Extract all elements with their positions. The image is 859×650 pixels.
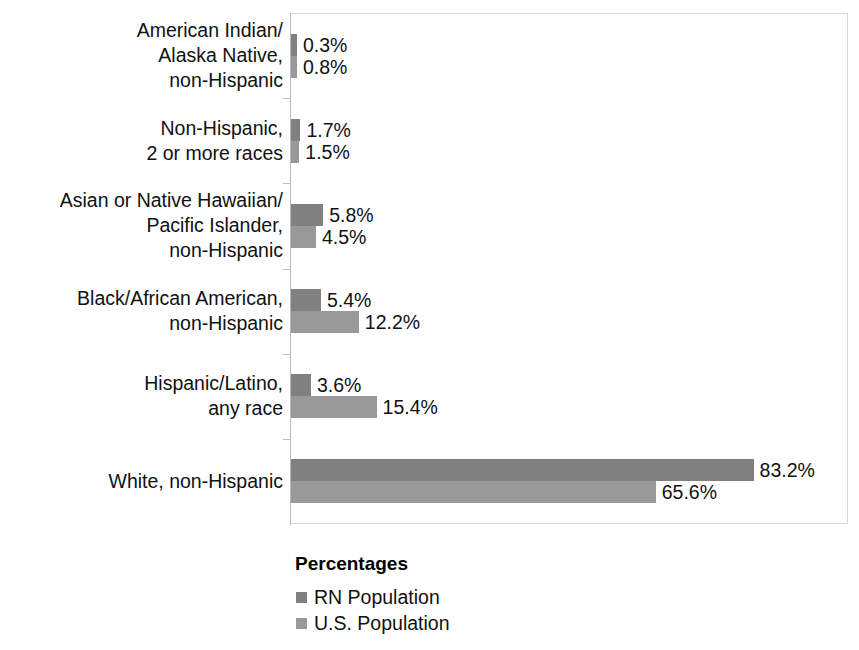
legend-items: RN PopulationU.S. Population <box>291 584 691 636</box>
bar-chart: American Indian/ Alaska Native, non-Hisp… <box>0 0 859 650</box>
bar-value-label: 0.8% <box>303 56 347 78</box>
bar-rn-population <box>291 459 754 481</box>
bar-value-label: 3.6% <box>317 374 361 396</box>
chart-category-row: White, non-Hispanic83.2%65.6% <box>0 439 859 524</box>
bar-value-label: 0.3% <box>303 34 347 56</box>
legend-item[interactable]: U.S. Population <box>291 610 691 636</box>
bar-value-label: 1.7% <box>306 119 350 141</box>
legend-swatch-icon <box>296 618 307 629</box>
legend-item-label: U.S. Population <box>314 611 450 635</box>
bar-rn-population <box>291 34 297 56</box>
bar-value-label: 83.2% <box>760 459 815 481</box>
legend-item-label: RN Population <box>314 585 440 609</box>
bar-us-population <box>291 311 359 333</box>
chart-category-row: Black/African American, non-Hispanic5.4%… <box>0 269 859 354</box>
category-label: White, non-Hispanic <box>109 469 284 494</box>
chart-category-row: American Indian/ Alaska Native, non-Hisp… <box>0 13 859 98</box>
bar-value-label: 15.4% <box>383 396 438 418</box>
axis-tick <box>283 269 291 270</box>
bar-us-population <box>291 226 316 248</box>
chart-legend: Percentages RN PopulationU.S. Population <box>291 552 691 636</box>
category-label: Non-Hispanic, 2 or more races <box>146 116 283 166</box>
axis-tick <box>283 183 291 184</box>
category-label: American Indian/ Alaska Native, non-Hisp… <box>137 18 283 93</box>
legend-item[interactable]: RN Population <box>291 584 691 610</box>
bar-us-population <box>291 481 656 503</box>
legend-swatch-icon <box>296 592 307 603</box>
bar-value-label: 65.6% <box>662 481 717 503</box>
bar-value-label: 12.2% <box>365 311 420 333</box>
category-label: Asian or Native Hawaiian/ Pacific Island… <box>60 188 283 263</box>
chart-category-row: Hispanic/Latino, any race3.6%15.4% <box>0 354 859 439</box>
chart-category-row: Non-Hispanic, 2 or more races1.7%1.5% <box>0 98 859 183</box>
bar-rn-population <box>291 119 300 141</box>
bar-value-label: 5.4% <box>327 289 371 311</box>
bar-us-population <box>291 56 297 78</box>
bar-rn-population <box>291 204 323 226</box>
bar-value-label: 1.5% <box>305 141 349 163</box>
bar-us-population <box>291 396 377 418</box>
axis-tick <box>283 439 291 440</box>
bar-us-population <box>291 141 299 163</box>
chart-category-row: Asian or Native Hawaiian/ Pacific Island… <box>0 183 859 268</box>
bar-value-label: 5.8% <box>329 204 373 226</box>
axis-tick <box>283 354 291 355</box>
bar-value-label: 4.5% <box>322 226 366 248</box>
bar-rn-population <box>291 374 311 396</box>
axis-tick <box>283 98 291 99</box>
category-label: Black/African American, non-Hispanic <box>77 286 283 336</box>
category-label: Hispanic/Latino, any race <box>144 371 283 421</box>
bar-rn-population <box>291 289 321 311</box>
legend-title: Percentages <box>295 552 691 576</box>
